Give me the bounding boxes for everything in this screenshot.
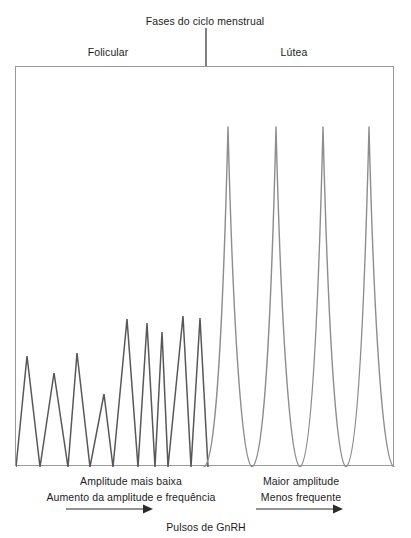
axis-caption-gnrh-pulses: Pulsos de GnRH <box>166 521 246 533</box>
luteal-trend-arrow <box>256 503 344 515</box>
menstrual-cycle-gnrh-pulse-figure: Fases do ciclo menstrual Folicular Lútea… <box>0 0 411 538</box>
gnrh-pulse-waveform <box>16 67 395 467</box>
follicular-pulse-trace <box>16 316 208 467</box>
annotation-luteal-frequency: Menos frequente <box>261 491 341 503</box>
figure-title: Fases do ciclo menstrual <box>146 15 265 27</box>
annotation-luteal-amplitude: Maior amplitude <box>263 475 339 487</box>
phase-label-follicular: Folicular <box>88 46 129 58</box>
plot-area <box>15 66 394 466</box>
annotation-follicular-amplitude: Amplitude mais baixa <box>80 475 182 487</box>
follicular-trend-arrow <box>66 503 154 515</box>
annotation-follicular-trend: Aumento da amplitude e frequência <box>46 491 215 503</box>
luteal-pulse-trace <box>204 127 394 467</box>
phase-label-luteal: Lútea <box>281 46 308 58</box>
